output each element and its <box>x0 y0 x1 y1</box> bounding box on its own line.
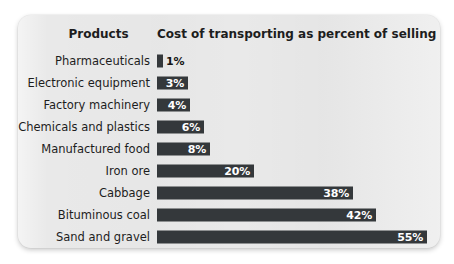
chart-row: Chemicals and plastics6% <box>18 116 440 138</box>
bar: 42% <box>157 209 376 222</box>
bar: 20% <box>157 165 254 178</box>
bar: 4% <box>157 99 190 112</box>
chart-row: Cabbage38% <box>18 182 440 204</box>
category-label: Factory machinery <box>18 99 157 112</box>
bar: 1% <box>157 55 163 68</box>
bar: 55% <box>157 231 427 244</box>
bar-value-label: 3% <box>166 77 188 90</box>
chart-row: Sand and gravel55% <box>18 226 440 248</box>
bar-track: 20% <box>157 160 440 182</box>
column-header-value-cell: Cost of transporting as percent of selli… <box>157 23 440 45</box>
chart-row: Electronic equipment3% <box>18 72 440 94</box>
category-label: Manufactured food <box>18 143 157 156</box>
bar-track: 3% <box>157 72 440 94</box>
bar-value-label: 38% <box>323 187 353 200</box>
chart-row: Manufactured food8% <box>18 138 440 160</box>
bar: 8% <box>157 143 210 156</box>
category-label: Cabbage <box>18 187 157 200</box>
bar: 6% <box>157 121 204 134</box>
bar: 38% <box>157 187 353 200</box>
chart-row: Pharmaceuticals1% <box>18 50 440 72</box>
bar-track: 8% <box>157 138 440 160</box>
bar-track: 42% <box>157 204 440 226</box>
category-label: Electronic equipment <box>18 77 157 90</box>
bar-value-label: 42% <box>346 209 376 222</box>
chart-panel: Products Cost of transporting as percent… <box>18 15 440 248</box>
bar-track: 38% <box>157 182 440 204</box>
bar-track: 4% <box>157 94 440 116</box>
chart-row: Bituminous coal42% <box>18 204 440 226</box>
bar-value-label: 8% <box>188 143 210 156</box>
bar-value-label: 1% <box>163 55 184 68</box>
bar-track: 1% <box>157 50 440 72</box>
chart-row: Factory machinery4% <box>18 94 440 116</box>
chart-row: Iron ore20% <box>18 160 440 182</box>
category-label: Bituminous coal <box>18 209 157 222</box>
bar: 3% <box>157 77 188 90</box>
column-header-products: Products <box>18 28 157 41</box>
bar-track: 6% <box>157 116 440 138</box>
column-header-value: Cost of transporting as percent of selli… <box>157 27 440 41</box>
bar-value-label: 55% <box>397 231 427 244</box>
bar-value-label: 6% <box>182 121 204 134</box>
bar-value-label: 20% <box>224 165 254 178</box>
category-label: Sand and gravel <box>18 231 157 244</box>
category-label: Pharmaceuticals <box>18 55 157 68</box>
category-label: Chemicals and plastics <box>18 121 157 134</box>
chart-header-row: Products Cost of transporting as percent… <box>18 23 440 45</box>
bar-track: 55% <box>157 226 440 248</box>
category-label: Iron ore <box>18 165 157 178</box>
bar-value-label: 4% <box>168 99 190 112</box>
